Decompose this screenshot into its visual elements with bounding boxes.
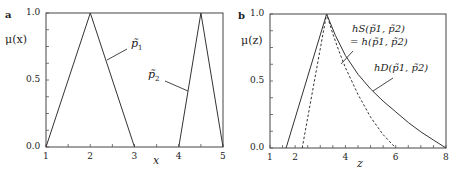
hd-leader-line xyxy=(373,78,393,91)
y-tick-label: 0.0 xyxy=(26,142,40,151)
y-tick-label: 1.0 xyxy=(26,8,40,17)
y-tick-label: 0.5 xyxy=(26,75,40,84)
y-tick-label: 0.0 xyxy=(250,143,264,152)
p2-annotation: p̃2 xyxy=(148,69,160,83)
x-tick-label: 2 xyxy=(87,152,93,161)
panel-b-x-axis-label: z xyxy=(357,158,363,169)
series-line xyxy=(302,14,396,148)
x-tick-label: 1 xyxy=(267,153,273,162)
panel-b-series xyxy=(286,14,446,148)
x-tick-label: 4 xyxy=(342,153,348,162)
x-tick-label: 6 xyxy=(393,153,399,162)
series-line xyxy=(286,14,446,148)
p2-leader-line xyxy=(165,81,188,91)
x-tick-label: 5 xyxy=(220,152,226,161)
panel-a-x-axis-label: x xyxy=(153,155,159,166)
series-line xyxy=(46,13,135,147)
panel-b-label: b xyxy=(238,10,245,21)
panel-b-frame xyxy=(270,14,446,148)
hd-annotation: hD(p̃1, p̃2) xyxy=(374,63,428,73)
y-tick-label: 0.5 xyxy=(250,76,264,85)
x-tick-label: 2 xyxy=(292,153,298,162)
p1-leader-line xyxy=(107,49,127,60)
x-tick-label: 4 xyxy=(176,152,182,161)
hs-leader-line xyxy=(341,51,353,64)
p1-annotation: p̃1 xyxy=(131,38,143,52)
series-line xyxy=(179,13,223,147)
x-tick-label: 3 xyxy=(132,152,138,161)
x-tick-label: 8 xyxy=(443,153,449,162)
x-tick-label: 1 xyxy=(43,152,49,161)
panel-a-series xyxy=(46,13,223,147)
panel-b-y-axis-label: μ(z) xyxy=(241,35,263,46)
panel-a-ticks xyxy=(46,13,223,147)
panel-a-frame xyxy=(46,13,223,147)
panel-b-ticks xyxy=(270,14,446,148)
hs-annotation-line2: = h(p̃1, p̃2) xyxy=(350,37,408,47)
panel-a-label: a xyxy=(5,9,11,20)
y-tick-label: 1.0 xyxy=(250,9,264,18)
panel-a-y-axis-label: μ(x) xyxy=(5,34,27,45)
hs-annotation-line1: hS(p̃1, p̃2) xyxy=(352,24,405,34)
